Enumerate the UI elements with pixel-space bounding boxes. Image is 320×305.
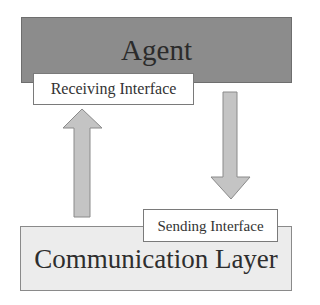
- up-arrow-icon: [63, 109, 102, 217]
- communication-layer-label: Communication Layer: [21, 244, 291, 274]
- down-arrow-icon: [211, 92, 250, 199]
- sending-interface-box: Sending Interface: [143, 209, 278, 242]
- sending-interface-label: Sending Interface: [144, 217, 277, 235]
